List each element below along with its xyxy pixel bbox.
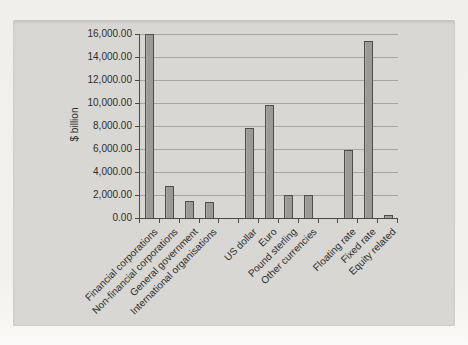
bar xyxy=(205,202,214,218)
y-tick-label: 8,000.00 xyxy=(43,120,132,132)
y-tick-label: 10,000.00 xyxy=(43,97,132,109)
x-axis-tick xyxy=(179,219,180,223)
plot-area xyxy=(139,34,398,219)
gridline xyxy=(140,34,398,35)
x-axis-tick xyxy=(238,219,239,223)
x-axis-tick xyxy=(159,219,160,223)
y-axis-tick xyxy=(135,126,139,127)
bar xyxy=(304,195,313,218)
x-axis-tick xyxy=(318,219,319,223)
x-axis-tick xyxy=(397,219,398,223)
x-axis-tick xyxy=(139,219,140,223)
y-tick-label: 6,000.00 xyxy=(43,143,132,155)
y-tick-label: 2,000.00 xyxy=(43,189,132,201)
bar xyxy=(185,201,194,218)
page-background: $ billion 0.002,000.004,000.006,000.008,… xyxy=(0,0,468,345)
x-axis-tick xyxy=(377,219,378,223)
y-tick-label: 16,000.00 xyxy=(43,28,132,40)
bar xyxy=(145,34,154,218)
y-tick-label: 4,000.00 xyxy=(43,166,132,178)
y-axis-tick xyxy=(135,57,139,58)
y-tick-label: 14,000.00 xyxy=(43,51,132,63)
bar xyxy=(284,195,293,218)
y-axis-tick xyxy=(135,103,139,104)
y-axis-tick xyxy=(135,195,139,196)
bar xyxy=(245,128,254,218)
y-axis-tick xyxy=(135,34,139,35)
bar xyxy=(384,215,393,218)
chart-card: $ billion 0.002,000.004,000.006,000.008,… xyxy=(13,20,455,326)
bar xyxy=(364,41,373,218)
y-axis-tick xyxy=(135,149,139,150)
x-axis-tick xyxy=(298,219,299,223)
gridline xyxy=(140,80,398,81)
x-axis-tick xyxy=(218,219,219,223)
y-tick-label: 0.00 xyxy=(43,212,132,224)
x-category-label: Fixed rate xyxy=(250,226,378,345)
gridline xyxy=(140,103,398,104)
x-axis-tick xyxy=(357,219,358,223)
bar xyxy=(265,105,274,218)
y-axis-tick xyxy=(135,172,139,173)
y-tick-label: 12,000.00 xyxy=(43,74,132,86)
y-axis-tick xyxy=(135,80,139,81)
x-axis-tick xyxy=(278,219,279,223)
bar xyxy=(165,186,174,218)
x-axis-tick xyxy=(199,219,200,223)
gridline xyxy=(140,57,398,58)
x-axis-tick xyxy=(337,219,338,223)
x-axis-tick xyxy=(258,219,259,223)
bar xyxy=(344,150,353,218)
